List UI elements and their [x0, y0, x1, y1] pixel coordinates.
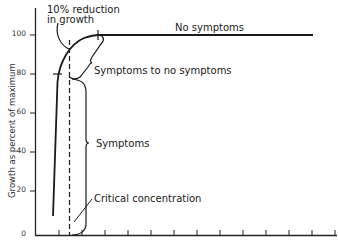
- x-ticks: [59, 230, 335, 235]
- ytick-0: 0: [10, 229, 26, 238]
- critical-pointer: [74, 199, 92, 222]
- reduction-pointer: [57, 23, 69, 49]
- chart-plot: [0, 0, 338, 243]
- annotation-reduction-line2: in growth: [47, 14, 94, 25]
- growth-curve: [53, 35, 313, 216]
- ytick-100: 100: [10, 29, 26, 38]
- annotation-symptoms: Symptoms: [96, 138, 149, 149]
- brace-symptoms: [72, 79, 89, 235]
- chart: 100 80 60 40 20 0 Growth as percent of m…: [0, 0, 338, 243]
- annotation-critical-concentration: Critical concentration: [94, 193, 201, 204]
- annotation-no-symptoms: No symptoms: [175, 22, 244, 33]
- annotation-symptoms-to-no: Symptoms to no symptoms: [94, 65, 232, 76]
- y-axis-label: Growth as percent of maximum: [7, 88, 17, 198]
